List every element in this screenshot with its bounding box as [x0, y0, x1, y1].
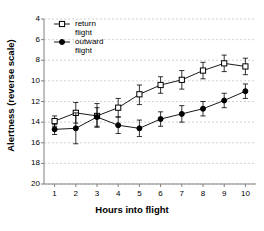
- legend-label-2-line2: flight: [75, 46, 92, 55]
- y-tick-label: 12: [20, 97, 40, 106]
- legend: [54, 21, 70, 44]
- y-tick-label: 8: [20, 55, 40, 64]
- y-tick-label: 10: [20, 76, 40, 85]
- data-point-marker: [137, 92, 142, 97]
- x-axis-title: Hours into flight: [0, 204, 264, 215]
- legend-label-1-line1: return: [75, 19, 96, 28]
- y-axis-title: Alertness (reverse scale): [0, 0, 20, 190]
- data-point-marker: [201, 106, 206, 111]
- series-line: [55, 91, 246, 129]
- legend-label-2-line1: outward: [75, 37, 103, 46]
- x-tick-label: 9: [216, 189, 232, 198]
- data-point-marker: [73, 126, 78, 131]
- data-point-marker: [243, 64, 248, 69]
- data-point-marker: [222, 61, 227, 66]
- x-tick-label: 10: [237, 189, 253, 198]
- y-tick-label: 4: [20, 14, 40, 23]
- x-tick-label: 1: [47, 189, 63, 198]
- data-point-marker: [137, 126, 142, 131]
- data-point-marker: [116, 105, 121, 110]
- data-point-marker: [222, 98, 227, 103]
- x-tick-label: 6: [153, 189, 169, 198]
- data-point-marker: [95, 114, 100, 119]
- series-line: [55, 63, 246, 121]
- series-1: [52, 55, 248, 127]
- y-axis-title-text: Alertness (reverse scale): [5, 39, 16, 152]
- x-tick-label: 7: [174, 189, 190, 198]
- y-tick-label: 14: [20, 117, 40, 126]
- data-point-marker: [116, 123, 121, 128]
- data-point-marker: [243, 89, 248, 94]
- data-point-marker: [52, 127, 57, 132]
- y-tick-label: 6: [20, 35, 40, 44]
- x-tick-label: 8: [195, 189, 211, 198]
- data-point-marker: [60, 40, 65, 45]
- data-point-marker: [179, 77, 184, 82]
- y-tick-label: 20: [20, 179, 40, 188]
- x-tick-label: 2: [68, 189, 84, 198]
- legend-label-1-line2: flight: [75, 28, 92, 37]
- y-tick-label: 16: [20, 138, 40, 147]
- data-point-marker: [200, 68, 205, 73]
- data-point-marker: [59, 21, 64, 26]
- y-tick-label: 18: [20, 158, 40, 167]
- chart-figure: Alertness (reverse scale) Hours into fli…: [0, 0, 264, 231]
- x-tick-label: 5: [131, 189, 147, 198]
- x-tick-label: 4: [110, 189, 126, 198]
- data-point-marker: [158, 117, 163, 122]
- data-point-marker: [179, 111, 184, 116]
- x-tick-label: 3: [89, 189, 105, 198]
- data-point-marker: [158, 82, 163, 87]
- data-point-marker: [52, 118, 57, 123]
